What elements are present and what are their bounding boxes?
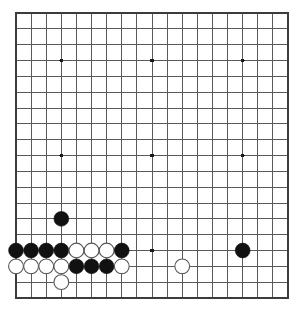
black-stone[interactable]: [235, 243, 250, 258]
black-stone[interactable]: [84, 259, 99, 274]
black-stone[interactable]: [39, 243, 54, 258]
black-stone[interactable]: [114, 243, 129, 258]
black-stone[interactable]: [24, 243, 39, 258]
star-point: [59, 154, 63, 158]
go-board-container[interactable]: [0, 0, 303, 313]
star-point: [150, 154, 154, 158]
black-stone[interactable]: [54, 243, 69, 258]
star-point: [150, 59, 154, 63]
white-stone[interactable]: [39, 259, 54, 274]
white-stone[interactable]: [114, 259, 129, 274]
star-point: [59, 59, 63, 63]
white-stone[interactable]: [24, 259, 39, 274]
go-board-canvas[interactable]: [0, 0, 303, 313]
star-point: [150, 249, 154, 253]
white-stone[interactable]: [99, 243, 114, 258]
star-point: [241, 59, 245, 63]
star-point: [241, 154, 245, 158]
black-stone[interactable]: [54, 211, 69, 226]
white-stone[interactable]: [54, 259, 69, 274]
white-stone[interactable]: [69, 243, 84, 258]
black-stone[interactable]: [9, 243, 24, 258]
white-stone[interactable]: [175, 259, 190, 274]
white-stone[interactable]: [84, 243, 99, 258]
black-stone[interactable]: [99, 259, 114, 274]
white-stone[interactable]: [9, 259, 24, 274]
black-stone[interactable]: [69, 259, 84, 274]
white-stone[interactable]: [54, 275, 69, 290]
